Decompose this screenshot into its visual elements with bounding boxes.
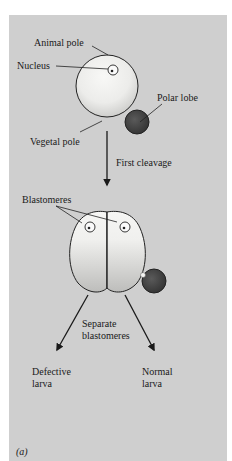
label-vegetal-pole: Vegetal pole [30,136,80,148]
label-animal-pole: Animal pole [34,37,84,49]
polar-lobe-icon [125,110,149,134]
label-first-cleavage: First cleavage [116,157,172,169]
label-nucleus: Nucleus [17,60,50,72]
label-normal-larva-1: Normal [142,366,173,378]
label-polar-lobe: Polar lobe [157,92,198,104]
label-defective-larva-1: Defective [32,366,71,378]
two-cell-embryo [70,211,146,292]
panel-label: (a) [16,446,28,458]
polar-lobe-icon [142,269,166,293]
nucleus-icon [108,65,118,75]
label-blastomeres: Blastomeres [22,194,71,206]
blastomere-nucleus-icon [85,222,95,232]
egg-cell [76,55,138,117]
label-separate-blastomeres-1: Separate [82,318,116,330]
blastomere-nucleus-icon [120,222,130,232]
label-normal-larva-2: larva [142,378,162,390]
label-defective-larva-2: larva [32,378,52,390]
label-separate-blastomeres-2: blastomeres [82,330,130,342]
